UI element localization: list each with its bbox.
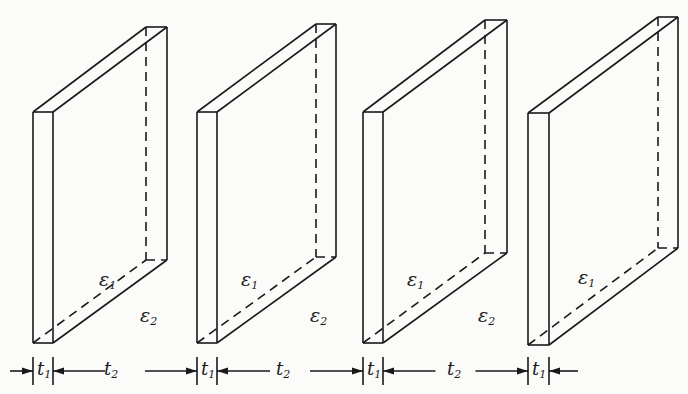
- slab-drawing: [0, 0, 688, 394]
- thickness-label-t1: t1: [532, 360, 546, 380]
- thickness-label-t1: t1: [37, 360, 51, 380]
- bottom-right-edge: [217, 257, 336, 343]
- dimension-arrow-icon: [22, 368, 33, 375]
- dielectric-slabs-diagram: ε1ε1ε1ε1ε2ε2ε2t1t2t1t2t1t2t1: [0, 0, 688, 394]
- permittivity-label-eps1: ε1: [578, 268, 595, 289]
- dimension-arrow-icon: [186, 368, 197, 375]
- dimension-arrow-icon: [517, 368, 528, 375]
- thickness-label-t2: t2: [276, 360, 290, 380]
- dimension-arrow-icon: [53, 368, 64, 375]
- thickness-label-t1: t1: [201, 360, 215, 380]
- bottom-right-edge: [383, 253, 507, 343]
- permittivity-label-eps1: ε1: [241, 270, 258, 291]
- permittivity-label-eps1: ε1: [99, 270, 116, 291]
- top-left-edge: [33, 27, 146, 112]
- permittivity-label-eps2: ε2: [478, 306, 495, 327]
- permittivity-label-eps1: ε1: [407, 270, 424, 291]
- hidden-bottom-left-edge: [363, 253, 485, 343]
- thickness-label-t2: t2: [447, 360, 461, 380]
- hidden-bottom-left-edge: [528, 248, 658, 345]
- top-left-edge: [197, 24, 316, 112]
- top-left-edge: [528, 17, 658, 113]
- dimension-arrow-icon: [549, 368, 560, 375]
- dimension-arrow-icon: [383, 368, 394, 375]
- dimension-arrow-icon: [217, 368, 228, 375]
- dimension-arrow-icon: [352, 368, 363, 375]
- bottom-right-edge: [549, 248, 678, 345]
- top-right-edge: [217, 24, 336, 112]
- permittivity-label-eps2: ε2: [310, 306, 327, 327]
- top-left-edge: [363, 20, 485, 112]
- top-right-edge: [53, 27, 167, 112]
- hidden-bottom-left-edge: [33, 260, 146, 343]
- permittivity-label-eps2: ε2: [140, 306, 157, 327]
- thickness-label-t2: t2: [104, 360, 118, 380]
- thickness-label-t1: t1: [367, 360, 381, 380]
- top-right-edge: [383, 20, 507, 112]
